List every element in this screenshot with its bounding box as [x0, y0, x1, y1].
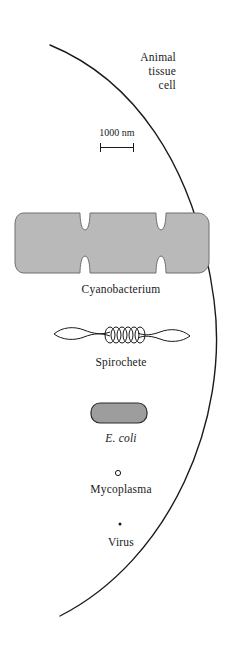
spirochete-label: Spirochete — [0, 356, 242, 370]
mycoplasma-label: Mycoplasma — [0, 483, 242, 497]
spirochete-shape — [52, 320, 192, 350]
scale-bar-cap-left — [100, 143, 101, 152]
ecoli-shape — [90, 402, 148, 424]
virus-shape — [117, 521, 123, 527]
cyanobacterium-label: Cyanobacterium — [0, 283, 242, 297]
scale-bar-label: 1000 nm — [77, 127, 157, 139]
scale-bar-line — [100, 147, 134, 148]
cyanobacterium-shape — [14, 212, 210, 274]
ecoli-label: E. coli — [0, 432, 242, 446]
animal-tissue-cell-label: Animal tissue cell — [0, 50, 176, 92]
scale-bar: 1000 nm — [100, 127, 134, 152]
scale-bar-rule — [100, 143, 134, 152]
size-comparison-figure: Animal tissue cell 1000 nm Cyanobacteriu… — [0, 0, 242, 648]
virus-label: Virus — [0, 536, 242, 550]
mycoplasma-shape — [113, 468, 123, 478]
scale-bar-cap-right — [133, 143, 134, 152]
